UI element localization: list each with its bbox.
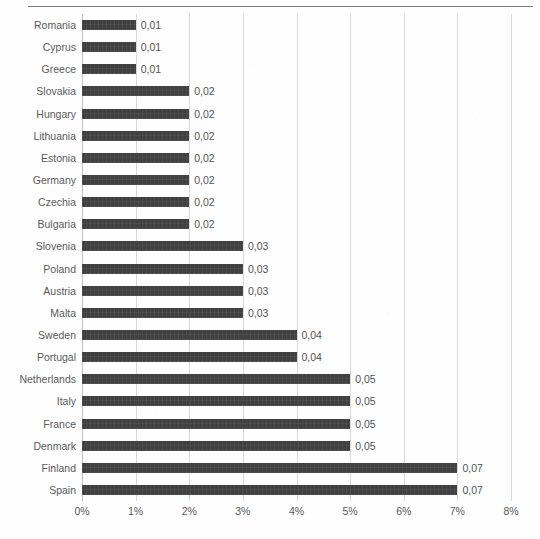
- x-tick-7%: 7%: [450, 506, 465, 517]
- value-label-italy: 0,05: [355, 396, 375, 406]
- category-label-hungary: Hungary: [36, 109, 76, 119]
- category-label-italy: Italy: [57, 396, 76, 406]
- chart-row: France0,05: [82, 419, 511, 429]
- category-label-malta: Malta: [50, 308, 76, 318]
- category-label-cyprus: Cyprus: [43, 42, 76, 52]
- chart-row: Sweden0,04: [82, 330, 511, 340]
- category-label-finland: Finland: [42, 463, 76, 473]
- chart-row: Romania0,01: [82, 20, 511, 30]
- bar-czechia[interactable]: [82, 197, 189, 207]
- chart-row: Netherlands0,05: [82, 374, 511, 384]
- value-label-czechia: 0,02: [194, 197, 214, 207]
- category-label-greece: Greece: [42, 64, 76, 74]
- value-label-lithuania: 0,02: [194, 131, 214, 141]
- category-label-sweden: Sweden: [38, 330, 76, 340]
- value-label-germany: 0,02: [194, 175, 214, 185]
- chart-row: Bulgaria0,02: [82, 219, 511, 229]
- x-tick-2%: 2%: [182, 506, 197, 517]
- bar-slovakia[interactable]: [82, 86, 189, 96]
- bar-germany[interactable]: [82, 175, 189, 185]
- bar-sweden[interactable]: [82, 330, 297, 340]
- bar-finland[interactable]: [82, 463, 457, 473]
- category-label-netherlands: Netherlands: [19, 374, 76, 384]
- value-label-estonia: 0,02: [194, 153, 214, 163]
- chart-row: Hungary0,02: [82, 109, 511, 119]
- value-label-cyprus: 0,01: [141, 42, 161, 52]
- bar-cyprus[interactable]: [82, 42, 136, 52]
- value-label-netherlands: 0,05: [355, 374, 375, 384]
- bar-slovenia[interactable]: [82, 241, 243, 251]
- category-label-portugal: Portugal: [37, 352, 76, 362]
- bar-romania[interactable]: [82, 20, 136, 30]
- value-label-austria: 0,03: [248, 286, 268, 296]
- bar-lithuania[interactable]: [82, 131, 189, 141]
- chart-row: Portugal0,04: [82, 352, 511, 362]
- category-label-bulgaria: Bulgaria: [37, 219, 76, 229]
- chart-row: Cyprus0,01: [82, 42, 511, 52]
- chart-row: Spain0,07: [82, 485, 511, 495]
- value-label-finland: 0,07: [462, 463, 482, 473]
- chart-row: Italy0,05: [82, 396, 511, 406]
- value-label-poland: 0,03: [248, 264, 268, 274]
- chart-row: Finland0,07: [82, 463, 511, 473]
- x-tick-3%: 3%: [235, 506, 250, 517]
- bar-estonia[interactable]: [82, 153, 189, 163]
- x-tick-1%: 1%: [128, 506, 143, 517]
- value-label-slovenia: 0,03: [248, 241, 268, 251]
- value-label-france: 0,05: [355, 419, 375, 429]
- chart-row: Lithuania0,02: [82, 131, 511, 141]
- chart-row: Estonia0,02: [82, 153, 511, 163]
- value-label-hungary: 0,02: [194, 109, 214, 119]
- category-label-austria: Austria: [43, 286, 76, 296]
- chart-row: Czechia0,02: [82, 197, 511, 207]
- value-label-denmark: 0,05: [355, 441, 375, 451]
- chart-row: Germany0,02: [82, 175, 511, 185]
- bar-denmark[interactable]: [82, 441, 350, 451]
- bar-netherlands[interactable]: [82, 374, 350, 384]
- x-tick-4%: 4%: [289, 506, 304, 517]
- category-label-germany: Germany: [33, 175, 76, 185]
- category-label-slovenia: Slovenia: [36, 241, 76, 251]
- category-label-spain: Spain: [49, 485, 76, 495]
- bar-malta[interactable]: [82, 308, 243, 318]
- x-tick-5%: 5%: [343, 506, 358, 517]
- category-label-estonia: Estonia: [41, 153, 76, 163]
- value-label-malta: 0,03: [248, 308, 268, 318]
- chart-row: Slovenia0,03: [82, 241, 511, 251]
- bar-greece[interactable]: [82, 64, 136, 74]
- bar-chart: Romania0,01Cyprus0,01Greece0,01Slovakia0…: [0, 0, 540, 539]
- bar-spain[interactable]: [82, 485, 457, 495]
- x-tick-0%: 0%: [74, 506, 89, 517]
- value-label-portugal: 0,04: [302, 352, 322, 362]
- value-label-romania: 0,01: [141, 20, 161, 30]
- category-label-slovakia: Slovakia: [36, 86, 76, 96]
- value-label-greece: 0,01: [141, 64, 161, 74]
- chart-row: Greece0,01: [82, 64, 511, 74]
- category-label-poland: Poland: [43, 264, 76, 274]
- category-label-denmark: Denmark: [33, 441, 76, 451]
- gridline-8%: [511, 14, 512, 501]
- x-tick-8%: 8%: [503, 506, 518, 517]
- chart-row: Poland0,03: [82, 264, 511, 274]
- plot-area: Romania0,01Cyprus0,01Greece0,01Slovakia0…: [82, 14, 511, 501]
- bar-portugal[interactable]: [82, 352, 297, 362]
- value-label-spain: 0,07: [462, 485, 482, 495]
- value-label-sweden: 0,04: [302, 330, 322, 340]
- category-label-lithuania: Lithuania: [33, 131, 76, 141]
- value-label-slovakia: 0,02: [194, 86, 214, 96]
- bar-austria[interactable]: [82, 286, 243, 296]
- bar-hungary[interactable]: [82, 109, 189, 119]
- chart-row: Slovakia0,02: [82, 86, 511, 96]
- category-label-romania: Romania: [34, 20, 76, 30]
- bar-italy[interactable]: [82, 396, 350, 406]
- bar-poland[interactable]: [82, 264, 243, 274]
- x-tick-6%: 6%: [396, 506, 411, 517]
- chart-row: Malta0,03: [82, 308, 511, 318]
- chart-row: Denmark0,05: [82, 441, 511, 451]
- bar-bulgaria[interactable]: [82, 219, 189, 229]
- category-label-france: France: [43, 419, 76, 429]
- category-label-czechia: Czechia: [38, 197, 76, 207]
- bar-france[interactable]: [82, 419, 350, 429]
- value-label-bulgaria: 0,02: [194, 219, 214, 229]
- chart-row: Austria0,03: [82, 286, 511, 296]
